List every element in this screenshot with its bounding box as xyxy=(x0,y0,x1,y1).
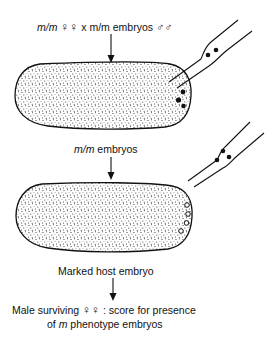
arrow-step2-to-host-embryo xyxy=(108,157,115,180)
step4-score-label: Male surviving ♀♀ : score for presence xyxy=(12,304,196,316)
arrow-step3-to-step4 xyxy=(110,278,117,301)
step4-score-label-line2: of m phenotype embryos xyxy=(47,318,163,330)
female-symbol: ♀♀ xyxy=(82,303,100,317)
step3-marked-host-label: Marked host embryo xyxy=(58,265,154,277)
step2-genotype: m/m xyxy=(74,143,94,155)
host-embryo xyxy=(16,183,192,252)
step2-host-label: m/m embryos xyxy=(74,143,138,155)
transplanted-cell xyxy=(179,229,184,234)
male-symbol: ♂♂ xyxy=(156,21,173,33)
donor-embryo xyxy=(15,62,191,129)
step1-cross-text: x m/m embryos xyxy=(78,21,156,33)
pole-cell-dot xyxy=(181,90,186,95)
step2-text: embryos xyxy=(94,143,137,155)
arrow-step1-to-donor-embryo xyxy=(108,34,115,63)
step1-genotype: m/m xyxy=(37,21,57,33)
pole-cell-dot xyxy=(176,97,181,102)
transplanted-cell xyxy=(185,203,190,208)
transplanted-cell xyxy=(186,212,191,217)
transplanted-cell xyxy=(184,221,189,226)
pole-cell-transplant-diagram xyxy=(0,0,279,347)
pipette-bottom-icon xyxy=(188,122,264,187)
step4-suffix: : score for presence xyxy=(100,304,196,316)
step1-cross-label: m/m ♀♀ x m/m embryos ♂♂ xyxy=(37,21,172,33)
pole-cell-dot xyxy=(181,104,186,109)
female-symbol: ♀♀ xyxy=(60,20,78,34)
step4-prefix: Male surviving xyxy=(12,304,82,316)
